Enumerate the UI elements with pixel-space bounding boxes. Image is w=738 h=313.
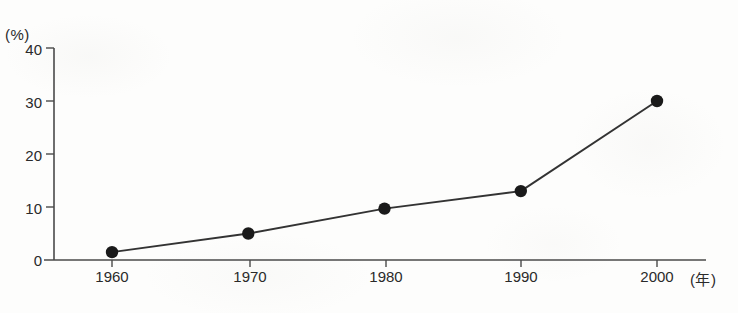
data-point-1970 [242,227,254,239]
data-point-1960 [106,246,118,258]
data-point-2000 [651,95,663,107]
data-series-line [112,101,657,252]
data-point-1990 [515,185,527,197]
data-point-1980 [378,202,390,214]
line-chart: (%) (年) 40 30 20 10 0 1960 1970 1980 199… [0,0,738,313]
plot-area [0,0,738,313]
